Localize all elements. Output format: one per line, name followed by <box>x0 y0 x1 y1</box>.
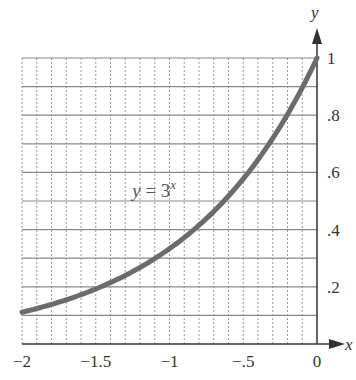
x-tick-label: −1 <box>160 352 178 371</box>
x-tick-label: 0 <box>313 352 322 371</box>
x-axis-arrow-icon <box>329 339 345 349</box>
x-tick-labels: −2−1.5−1−.50 <box>13 352 321 371</box>
x-axis-label: x <box>344 335 353 354</box>
y-tick-label: .6 <box>327 163 340 182</box>
x-tick-label: −.5 <box>232 352 254 371</box>
y-tick-label: 1 <box>327 49 336 68</box>
y-tick-label: .8 <box>327 106 340 125</box>
y-tick-label: .4 <box>327 221 340 240</box>
y-axis-label: y <box>309 3 319 22</box>
y-tick-label: .2 <box>327 278 340 297</box>
exponential-chart: −2−1.5−1−.50 .2.4.6.81 x y y = 3x <box>0 0 356 380</box>
y-axis-arrow-icon <box>312 28 322 44</box>
x-tick-label: −2 <box>13 352 31 371</box>
y-tick-labels: .2.4.6.81 <box>327 49 340 297</box>
curve-label: y = 3x <box>130 177 176 201</box>
x-tick-label: −1.5 <box>80 352 111 371</box>
